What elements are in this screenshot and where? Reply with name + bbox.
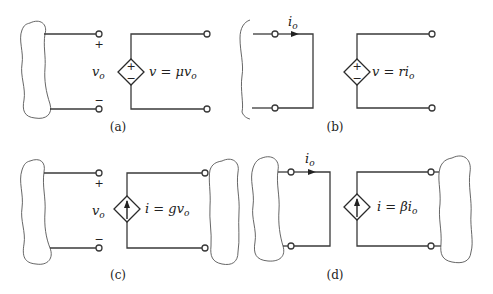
terminal xyxy=(272,31,278,37)
wire-top-right xyxy=(357,172,428,194)
panel-d: io i = βio (d) xyxy=(252,151,473,282)
short-circuit-wire xyxy=(294,172,330,246)
panel-b: io + − v = rio (b) xyxy=(252,14,435,134)
terminal xyxy=(272,105,278,111)
panel-caption: (c) xyxy=(110,268,126,282)
source-equation: i = gvo xyxy=(145,201,190,218)
terminal xyxy=(428,169,434,175)
control-current-label: io xyxy=(288,14,298,31)
terminal xyxy=(288,169,294,175)
terminal xyxy=(428,243,434,249)
network-blob-left xyxy=(21,160,52,265)
wire-bottom-right xyxy=(127,222,202,248)
panel-caption: (a) xyxy=(110,120,127,134)
source-equation: i = βio xyxy=(377,199,418,216)
wire-top-right xyxy=(131,34,204,59)
network-blob-right xyxy=(209,159,239,264)
terminal xyxy=(204,31,210,37)
terminal xyxy=(96,31,102,37)
source-minus: − xyxy=(126,72,135,85)
source-equation: v = μvo xyxy=(149,64,197,81)
wire-bottom-right xyxy=(357,220,428,246)
terminal xyxy=(202,170,208,176)
minus-sign: − xyxy=(94,233,103,246)
control-current-label: io xyxy=(305,151,315,168)
network-blob-right xyxy=(439,156,472,263)
wire-bottom-right xyxy=(357,85,429,108)
minus-sign: − xyxy=(94,94,103,107)
control-voltage-label: vo xyxy=(92,203,105,220)
plus-sign: + xyxy=(94,177,103,190)
panel-caption: (d) xyxy=(326,268,343,282)
plus-sign: + xyxy=(94,38,103,51)
network-blob-right-partial xyxy=(240,20,250,119)
terminal xyxy=(202,245,208,251)
network-blob-left xyxy=(21,21,51,118)
terminal xyxy=(96,170,102,176)
control-voltage-label: vo xyxy=(92,64,105,81)
terminal xyxy=(429,105,435,111)
wire-top-right xyxy=(127,173,202,196)
terminal xyxy=(288,243,294,249)
panel-c: + vo − i = gvo (c) xyxy=(21,159,240,282)
terminal xyxy=(429,31,435,37)
controlled-sources-figure: + vo − + − v = μvo (a) io + − v = rio (b… xyxy=(0,0,493,294)
terminal xyxy=(204,106,210,112)
source-minus: − xyxy=(352,72,361,85)
panel-caption: (b) xyxy=(326,120,343,134)
wire-top-right xyxy=(357,34,429,59)
source-equation: v = rio xyxy=(372,64,415,81)
short-circuit-wire xyxy=(278,34,313,108)
wire-bottom-right xyxy=(131,85,204,109)
panel-a: + vo − + − v = μvo (a) xyxy=(21,20,250,134)
